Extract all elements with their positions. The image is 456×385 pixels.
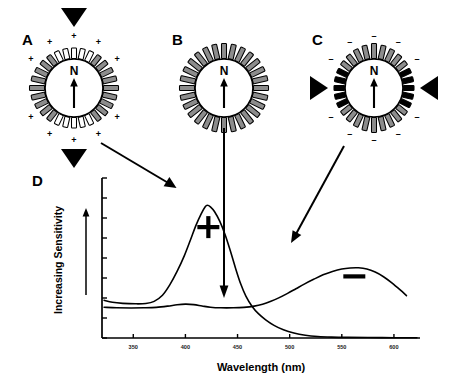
charge-plus-symbol: + bbox=[28, 112, 33, 122]
charge-minus-symbol: – bbox=[396, 129, 401, 139]
charge-minus-symbol: – bbox=[415, 54, 420, 64]
charge-minus-symbol: – bbox=[328, 112, 333, 122]
panel-c-label: C bbox=[312, 31, 323, 48]
charge-plus-symbol: + bbox=[47, 129, 52, 139]
annotation-plus bbox=[197, 216, 219, 238]
spoke bbox=[372, 118, 377, 133]
x-axis-tick-label: 600 bbox=[389, 344, 398, 350]
spoke bbox=[63, 48, 70, 59]
spoke bbox=[254, 86, 269, 91]
connector-arrows bbox=[101, 128, 344, 298]
charge-plus-symbol: + bbox=[114, 54, 119, 64]
spoke bbox=[104, 86, 119, 91]
charge-plus-symbol: + bbox=[71, 31, 76, 41]
x-axis-tick-label: 500 bbox=[285, 344, 294, 350]
spoke bbox=[362, 116, 370, 131]
spoke bbox=[334, 77, 345, 84]
spoke bbox=[252, 92, 268, 100]
figure-root: A N +++++ +++++ B N bbox=[0, 0, 456, 385]
charge-minus-symbol: – bbox=[371, 31, 376, 41]
charge-plus-symbol: + bbox=[71, 135, 76, 145]
spoke bbox=[102, 92, 117, 100]
connector-b-to-crossover bbox=[220, 128, 229, 298]
charge-plus-symbol: + bbox=[96, 37, 101, 47]
curve-positive-compression bbox=[104, 205, 417, 337]
spoke bbox=[228, 44, 236, 60]
spoke bbox=[78, 48, 85, 59]
triangle-top-icon bbox=[61, 8, 87, 27]
panel-c-core-letter: N bbox=[370, 64, 379, 78]
panel-a: A N +++++ +++++ bbox=[22, 8, 120, 168]
spoke bbox=[78, 116, 85, 127]
panel-b-label: B bbox=[172, 31, 183, 48]
charge-minus-symbol: – bbox=[371, 135, 376, 145]
curve-negative-compression bbox=[104, 268, 406, 308]
spoke bbox=[180, 92, 196, 100]
connector-a-to-peak-plus bbox=[101, 143, 177, 188]
charge-plus-symbol: + bbox=[96, 129, 101, 139]
y-axis-direction-arrow bbox=[83, 208, 90, 295]
x-axis-title: Wavelength (nm) bbox=[217, 361, 306, 373]
charge-minus-symbol: – bbox=[415, 112, 420, 122]
panel-a-core-letter: N bbox=[70, 64, 79, 78]
charge-minus-symbol: – bbox=[328, 54, 333, 64]
spoke bbox=[228, 116, 236, 132]
spoke bbox=[72, 118, 77, 129]
charge-minus-symbol: – bbox=[347, 129, 352, 139]
triangle-right-icon bbox=[420, 76, 438, 100]
spoke bbox=[72, 48, 77, 59]
charge-minus-symbol: – bbox=[396, 37, 401, 47]
charge-plus-symbol: + bbox=[47, 37, 52, 47]
connector-c-to-peak-minus bbox=[291, 146, 344, 243]
spoke bbox=[63, 116, 70, 127]
spoke bbox=[31, 76, 46, 84]
spoke bbox=[378, 116, 386, 131]
x-axis-tick-label: 450 bbox=[233, 344, 242, 350]
spoke bbox=[31, 92, 46, 100]
panel-d-plot: D Increasing Sensitivity 350400450500550… bbox=[32, 172, 420, 373]
spoke bbox=[180, 86, 195, 91]
charge-plus-symbol: + bbox=[114, 112, 119, 122]
spoke bbox=[334, 92, 345, 99]
charge-minus-symbol: – bbox=[347, 37, 352, 47]
x-axis-tick-label: 350 bbox=[129, 344, 138, 350]
spoke bbox=[30, 86, 45, 91]
spoke bbox=[334, 86, 345, 91]
spoke bbox=[180, 76, 196, 84]
spoke bbox=[252, 76, 268, 84]
spoke bbox=[378, 45, 386, 60]
x-axis-tick-labels: 350400450500550600 bbox=[129, 344, 399, 350]
panel-b: B N bbox=[172, 31, 269, 133]
panel-c: C N ––––– ––––– bbox=[310, 31, 438, 145]
spoke bbox=[212, 116, 220, 132]
charge-plus-symbol: + bbox=[28, 54, 33, 64]
triangle-left-icon bbox=[310, 76, 328, 100]
spoke bbox=[222, 44, 227, 59]
spoke bbox=[212, 44, 220, 60]
panel-d-label: D bbox=[32, 172, 43, 189]
spoke bbox=[372, 44, 377, 59]
photoreceptor-figure: A N +++++ +++++ B N bbox=[0, 0, 456, 385]
spoke bbox=[402, 92, 413, 99]
spoke bbox=[102, 76, 117, 84]
panel-a-label: A bbox=[22, 31, 33, 48]
spoke bbox=[404, 86, 415, 91]
spoke bbox=[402, 77, 413, 84]
y-axis-title: Increasing Sensitivity bbox=[52, 206, 64, 314]
x-axis-tick-label: 400 bbox=[181, 344, 190, 350]
x-axis-tick-label: 550 bbox=[337, 344, 346, 350]
spoke bbox=[362, 45, 370, 60]
triangle-bottom-icon bbox=[61, 149, 87, 168]
panel-b-core-letter: N bbox=[220, 64, 229, 78]
